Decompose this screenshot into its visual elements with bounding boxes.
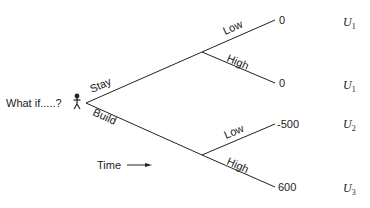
decision-tree: What if.....? Stay Build Low High Low Hi… (0, 0, 370, 208)
outcome-label-stay-high: High (225, 52, 251, 72)
value-stay-high: 0 (279, 77, 285, 89)
time-label: Time (97, 159, 121, 171)
utility-stay-high: U1 (343, 78, 356, 94)
outcome-label-build-high: High (225, 155, 251, 175)
value-build-low: -500 (277, 118, 299, 130)
root-label: What if.....? (6, 97, 62, 109)
branch-label-stay: Stay (88, 75, 113, 95)
time-arrow-icon (127, 163, 152, 167)
utility-stay-low: U1 (343, 15, 356, 31)
value-build-high: 600 (278, 181, 296, 193)
utility-build-low: U2 (343, 117, 356, 133)
person-icon (74, 94, 81, 109)
branch-label-build: Build (91, 106, 118, 127)
value-stay-low: 0 (279, 14, 285, 26)
outcome-label-stay-low: Low (221, 18, 244, 37)
utility-build-high: U3 (343, 181, 356, 197)
